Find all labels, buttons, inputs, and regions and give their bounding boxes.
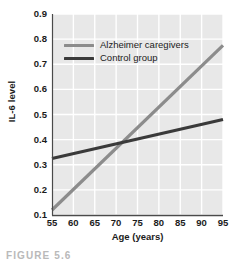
figure-caption: FIGURE 5.6 xyxy=(6,250,71,261)
figure-container: IL-6 level Age (years) 0.10.20.30.40.50.… xyxy=(0,0,249,262)
legend-label-2: Control group xyxy=(100,52,158,63)
y-axis-title: IL-6 level xyxy=(6,62,17,142)
y-tick-label: 0.2 xyxy=(21,185,47,195)
y-tick-label: 0.4 xyxy=(21,135,47,145)
y-tick-label: 0.9 xyxy=(21,9,47,19)
x-tick-label: 95 xyxy=(211,218,235,228)
y-tick-label: 0.8 xyxy=(21,34,47,44)
legend-swatch-1 xyxy=(64,44,94,47)
y-tick-label: 0.6 xyxy=(21,84,47,94)
legend-label-1: Alzheimer caregivers xyxy=(100,39,189,50)
legend-swatch-2 xyxy=(64,57,94,60)
y-tick-label: 0.5 xyxy=(21,110,47,120)
y-tick-label: 0.3 xyxy=(21,160,47,170)
y-tick-label: 0.7 xyxy=(21,59,47,69)
x-axis-title: Age (years) xyxy=(52,231,223,242)
